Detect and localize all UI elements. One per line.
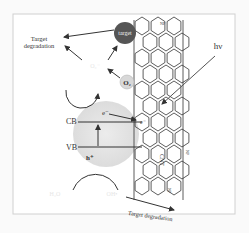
diagram-canvas: Target degradation target O₂ O₂⁻ hν CB V…	[0, 0, 249, 233]
superoxide-label: O₂⁻	[90, 63, 99, 69]
target-degradation-top-line2: degradation	[24, 42, 55, 49]
hydroxyl-label: OH•	[107, 191, 118, 197]
electron-cnt-label: e⁻	[140, 119, 146, 125]
water-label: H₂O	[50, 191, 61, 197]
vb-label: VB	[66, 143, 77, 152]
np-label-bottom: NP	[167, 188, 172, 194]
np-label-top: NP	[160, 21, 166, 26]
o2-label: O₂	[123, 79, 131, 87]
hole-label: h⁺	[86, 154, 94, 162]
cnt-label: CNT	[159, 154, 165, 166]
electron-label: e⁻	[102, 109, 109, 117]
cb-label: CB	[66, 117, 77, 126]
mechanism-diagram: Target degradation target O₂ O₂⁻ hν CB V…	[0, 0, 249, 233]
target-label: target	[118, 30, 132, 36]
np-label-right: NP	[185, 150, 190, 156]
hv-label: hν	[214, 41, 223, 51]
target-degradation-top-line1: Target	[31, 35, 48, 42]
